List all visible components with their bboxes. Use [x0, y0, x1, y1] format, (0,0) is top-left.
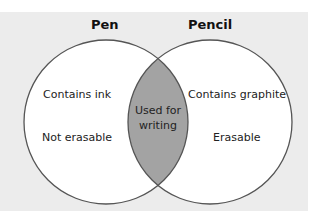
intersection-line-1: Used for: [128, 103, 188, 118]
pen-item-1: Contains ink: [43, 88, 111, 101]
pen-title: Pen: [91, 17, 119, 32]
pencil-item-1: Contains graphite: [188, 88, 286, 101]
intersection-label: Used for writing: [128, 103, 188, 133]
pencil-title: Pencil: [188, 17, 232, 32]
pen-item-2: Not erasable: [42, 131, 112, 144]
pencil-item-2: Erasable: [213, 131, 261, 144]
intersection-line-2: writing: [128, 118, 188, 133]
